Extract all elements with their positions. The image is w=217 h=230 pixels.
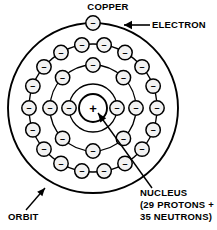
label-copper: COPPER (87, 1, 128, 12)
electron: – (146, 79, 160, 93)
electron-minus-sign: – (122, 48, 127, 58)
electron-minus-sign: – (26, 103, 31, 113)
electron-minus-sign: – (151, 81, 156, 91)
electron-minus-sign: – (140, 144, 145, 154)
electron: – (55, 70, 69, 84)
electron: – (62, 101, 76, 115)
electron-minus-sign: – (66, 103, 71, 113)
electron-minus-sign: – (133, 103, 138, 113)
electron: – (75, 38, 89, 52)
electron: – (86, 144, 100, 158)
electron: – (135, 142, 149, 156)
electron: – (146, 123, 160, 137)
electron: – (86, 58, 100, 72)
electron-minus-sign: – (90, 60, 95, 70)
electron: – (26, 79, 40, 93)
electron-minus-sign: – (121, 134, 126, 144)
electron-minus-sign: – (79, 166, 84, 176)
electron-minus-sign: – (41, 62, 46, 72)
electron-minus-sign: – (102, 166, 107, 176)
electron: – (150, 101, 164, 115)
electron-minus-sign: – (79, 40, 84, 50)
electron-minus-sign: – (58, 48, 63, 58)
electron: – (129, 101, 143, 115)
electron-minus-sign: – (154, 103, 159, 113)
electron: – (75, 164, 89, 178)
electron-minus-sign: – (90, 146, 95, 156)
electron-minus-sign: – (121, 73, 126, 83)
electron: – (43, 101, 57, 115)
electron-minus-sign: – (58, 159, 63, 169)
electron: – (37, 60, 51, 74)
electron: – (118, 45, 132, 59)
atom-illustration: + ––––––––––––––––––––––––––––– COPPER E… (0, 0, 217, 230)
electron-minus-sign: – (90, 18, 95, 28)
electron: – (116, 131, 130, 145)
electron-minus-sign: – (47, 103, 52, 113)
electron-minus-sign: – (60, 134, 65, 144)
electron-minus-sign: – (41, 144, 46, 154)
label-nucleus-protons: (29 PROTONS + (140, 199, 214, 210)
label-nucleus-title: NUCLEUS (140, 187, 187, 198)
electron: – (55, 131, 69, 145)
label-electron: ELECTRON (152, 19, 206, 30)
electron: – (26, 123, 40, 137)
electron-minus-sign: – (122, 159, 127, 169)
electron-minus-sign: – (140, 62, 145, 72)
electron: – (54, 156, 68, 170)
electron: – (110, 101, 124, 115)
electron: – (37, 142, 51, 156)
electron: – (86, 16, 100, 30)
electron-minus-sign: – (30, 81, 35, 91)
electron-arrowhead (124, 21, 132, 29)
electron: – (116, 70, 130, 84)
nucleus-plus-sign: + (89, 101, 97, 116)
electron: – (135, 60, 149, 74)
label-nucleus-neutrons: 35 NEUTRONS) (140, 211, 212, 222)
electron: – (97, 164, 111, 178)
copper-atom-diagram: + ––––––––––––––––––––––––––––– COPPER E… (0, 0, 217, 230)
electron-minus-sign: – (102, 40, 107, 50)
electron-minus-sign: – (60, 73, 65, 83)
electron: – (54, 45, 68, 59)
electron-minus-sign: – (30, 125, 35, 135)
electron-minus-sign: – (114, 103, 119, 113)
electron-minus-sign: – (151, 125, 156, 135)
label-orbit: ORBIT (8, 211, 39, 222)
electron: – (22, 101, 36, 115)
electron: – (97, 38, 111, 52)
